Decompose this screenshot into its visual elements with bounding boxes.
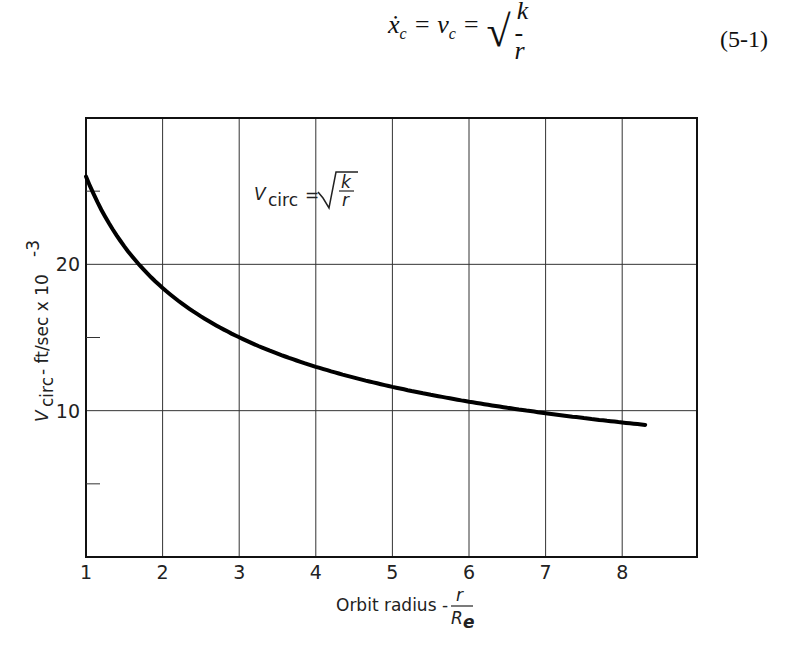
sqrt-icon [318,172,358,208]
xlabel-den-sub: e [463,612,475,632]
y-tick-label: 10 [56,400,80,422]
annotation-sub: circ [268,190,298,210]
plot-frame [86,118,697,557]
x-tick-label: 1 [80,561,92,583]
x-tick-label: 8 [616,561,628,583]
vcirc-curve [86,177,645,425]
x-tick-label: 7 [540,561,552,583]
xlabel-den: R [451,608,463,628]
y-minor-ticks [86,191,100,484]
x-tick-label: 5 [386,561,398,583]
annotation-den: r [342,190,350,210]
y-tick-labels: 1020 [56,253,80,421]
x-tick-label: 4 [310,561,322,583]
y-axis-label: V circ - ft/sec x 10 -3 [23,240,57,422]
grid-lines [86,118,697,557]
ylabel-exp: -3 [23,240,43,257]
x-axis-label: Orbit radius - r R e [336,585,475,632]
x-tick-label: 2 [157,561,169,583]
ylabel-v: V [32,409,52,422]
annotation-equals: = [305,185,319,205]
annotation-v: V [254,184,267,204]
xlabel-num: r [456,585,464,605]
x-tick-labels: 12345678 [80,561,628,583]
x-tick-label: 6 [463,561,475,583]
annotation-num: k [341,172,352,192]
ylabel-rest: - ft/sec x 10 [32,274,52,375]
curve-annotation: V circ = k r [254,172,358,210]
x-tick-label: 3 [233,561,245,583]
xlabel-text: Orbit radius - [336,595,448,615]
ylabel-sub: circ [37,377,57,407]
y-tick-label: 20 [56,253,80,275]
chart: 12345678 1020 V circ = k r V circ - ft/s… [0,0,794,656]
